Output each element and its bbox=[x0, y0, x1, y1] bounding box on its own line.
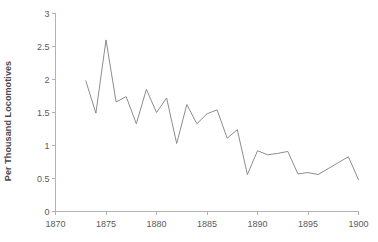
chart-canvas: 00.511.522.53 18701875188018851890189519… bbox=[0, 0, 378, 242]
y-tick-label: 3 bbox=[44, 9, 49, 19]
y-tick-label: 0 bbox=[44, 207, 49, 217]
y-tick-label: 2.5 bbox=[37, 42, 50, 52]
data-series-line bbox=[86, 40, 359, 180]
x-tick-label: 1870 bbox=[45, 219, 65, 229]
x-tick-label: 1895 bbox=[298, 219, 318, 229]
x-tick-label: 1890 bbox=[247, 219, 267, 229]
y-tick-label: 0.5 bbox=[37, 174, 50, 184]
y-tick-label: 1 bbox=[44, 141, 49, 151]
y-tick-label: 2 bbox=[44, 75, 49, 85]
x-tick-label: 1875 bbox=[96, 219, 116, 229]
x-tick-label: 1900 bbox=[348, 219, 368, 229]
tick-mark-group bbox=[52, 14, 359, 216]
x-tick-label: 1880 bbox=[146, 219, 166, 229]
y-tick-label: 1.5 bbox=[37, 108, 50, 118]
x-tick-label: 1885 bbox=[197, 219, 217, 229]
plot-area: 00.511.522.53 18701875188018851890189519… bbox=[0, 0, 378, 242]
y-tick-label-group: 00.511.522.53 bbox=[37, 9, 50, 217]
axis-group bbox=[56, 14, 359, 212]
line-chart: Per Thousand Locomotives 00.511.522.53 1… bbox=[0, 0, 378, 242]
x-tick-label-group: 1870187518801885189018951900 bbox=[45, 219, 368, 229]
